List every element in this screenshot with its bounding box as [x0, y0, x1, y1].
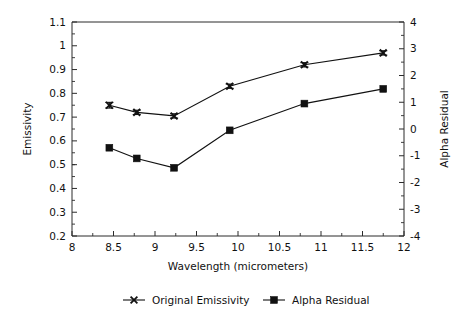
chart-legend: Original EmissivityAlpha Residual [123, 294, 370, 306]
x-axis-title: Wavelength (micrometers) [168, 260, 308, 272]
x-axis-tick-label: 10 [231, 241, 244, 253]
square-marker-icon [226, 127, 233, 134]
y-axis-right-tick-label: -1 [410, 149, 420, 161]
x-axis-tick-label: 8.5 [105, 241, 122, 253]
y-axis-left-tick-label: 1.1 [49, 16, 66, 28]
x-axis-tick-label: 9.5 [188, 241, 205, 253]
square-marker-icon [133, 155, 140, 162]
y-axis-left-tick-label: 0.3 [49, 206, 66, 218]
chart-figure: 0.20.30.40.50.60.70.80.911.1 -4-3-2-1012… [0, 0, 466, 321]
y-axis-left-tick-label: 0.5 [49, 158, 66, 170]
legend-label: Alpha Residual [292, 294, 370, 306]
square-marker-icon [171, 164, 178, 171]
y-axis-right-tick-label: -2 [410, 176, 420, 188]
y-axis-left-tick-label: 0.2 [49, 230, 66, 242]
y-axis-left-tick-label: 0.4 [49, 182, 66, 194]
square-marker-icon [301, 100, 308, 107]
y-axis-right-tick-label: -4 [410, 230, 421, 242]
y-axis-left-tick-label: 0.9 [49, 63, 66, 75]
legend-label: Original Emissivity [152, 294, 250, 306]
y-axis-left-tick-label: 0.6 [49, 134, 66, 146]
y-axis-right-tick-label: 4 [410, 16, 417, 28]
x-axis-tick-label: 10.5 [268, 241, 291, 253]
x-axis-tick-label: 12 [397, 241, 410, 253]
x-axis-tick-label: 11 [314, 241, 327, 253]
emissivity-alpha-residual-chart: 0.20.30.40.50.60.70.80.911.1 -4-3-2-1012… [0, 0, 466, 321]
x-axis-tick-label: 8 [69, 241, 76, 253]
y-axis-left-tick-label: 1 [59, 39, 66, 51]
y-axis-right-tick-label: 0 [410, 123, 417, 135]
x-axis-tick-label: 9 [152, 241, 159, 253]
y-axis-left-tick-label: 0.8 [49, 87, 66, 99]
y-axis-right-tick-label: 3 [410, 42, 417, 54]
y-axis-right-tick-label: 1 [410, 96, 417, 108]
chart-background [0, 0, 466, 321]
y-axis-left-tick-label: 0.7 [49, 111, 66, 123]
y-axis-right-tick-label: 2 [410, 69, 417, 81]
square-marker-icon [380, 85, 387, 92]
y-axis-left-title: Emissivity [21, 102, 33, 155]
square-marker-icon [271, 297, 278, 304]
x-axis-tick-label: 11.5 [351, 241, 374, 253]
y-axis-right-tick-label: -3 [410, 203, 420, 215]
y-axis-right-title: Alpha Residual [438, 90, 450, 168]
square-marker-icon [106, 144, 113, 151]
